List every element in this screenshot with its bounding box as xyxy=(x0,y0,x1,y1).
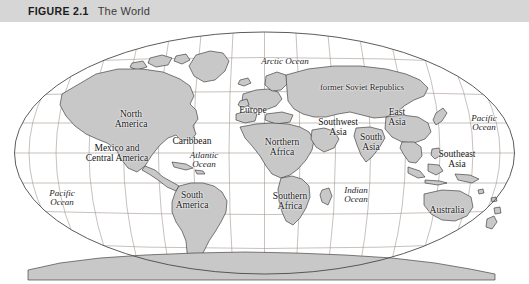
landmass-new-zealand xyxy=(486,216,497,229)
figure-header-bar: FIGURE 2.1 The World xyxy=(0,0,529,22)
landmass-new-zealand-north xyxy=(494,207,501,214)
figure-title-label: The World xyxy=(98,5,150,17)
world-map-area: North AmericaMexico and Central AmericaC… xyxy=(0,22,529,284)
figure-number-label: FIGURE 2.1 xyxy=(28,5,89,17)
landmass-antarctica xyxy=(28,252,495,280)
landmass-pacific-islands xyxy=(478,189,484,194)
figure-container: FIGURE 2.1 The World xyxy=(0,0,529,284)
figure-header-text-group: FIGURE 2.1 The World xyxy=(28,0,150,22)
world-map-graphic xyxy=(0,22,529,284)
